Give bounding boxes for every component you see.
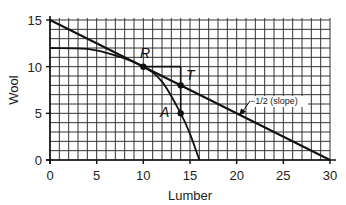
point-label-r: R [140,45,150,61]
x-tick: 5 [93,168,100,183]
y-tick-labels: 0 5 10 15 [28,13,42,168]
point-r-marker [140,63,146,69]
point-a-marker [177,110,183,116]
x-axis-title: Lumber [168,188,213,203]
y-axis-title: Wool [6,75,21,104]
x-tick: 30 [323,168,337,183]
slope-annotation-text: −1/2 (slope) [250,96,298,106]
y-tick: 0 [35,153,42,168]
x-tick: 25 [276,168,290,183]
point-label-a: A [159,104,169,120]
ppf-chart: 0 5 10 15 20 25 30 0 5 10 15 Lumber Wool… [0,0,346,205]
x-tick: 0 [46,168,53,183]
x-tick-labels: 0 5 10 15 20 25 30 [46,168,337,183]
y-tick: 15 [28,13,42,28]
x-tick: 20 [229,168,243,183]
y-tick: 10 [28,60,42,75]
x-tick: 15 [183,168,197,183]
y-tick: 5 [35,106,42,121]
point-t-marker [177,82,183,88]
point-label-t: T [186,67,196,83]
annotation-arrow-head-icon [239,109,246,117]
x-tick: 10 [136,168,150,183]
